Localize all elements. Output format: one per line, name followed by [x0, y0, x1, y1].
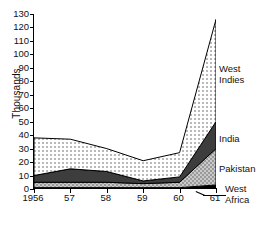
x-axis-tick-label: 59 [137, 193, 148, 203]
y-axis-tick-label: 100 [3, 49, 29, 59]
y-axis-tick-label: 80 [3, 76, 29, 86]
y-axis-tick-label: 20 [3, 157, 29, 167]
y-axis-tick-label: 30 [3, 144, 29, 154]
y-axis-tick-label: 120 [3, 22, 29, 32]
x-axis-tick-label: 57 [64, 193, 75, 203]
y-axis-tick-label: 60 [3, 103, 29, 113]
area-band-west-indies [34, 19, 216, 181]
y-axis-tick-label: 70 [3, 90, 29, 100]
series-label-pakistan: Pakistan [219, 164, 255, 175]
series-label-west-africa: West Africa [225, 184, 249, 205]
x-axis-tick-label: 1956 [22, 193, 43, 203]
y-axis-tick-mark [30, 162, 34, 163]
y-axis-tick-mark [30, 149, 34, 150]
plot-svg [34, 14, 216, 189]
y-axis-tick-label: 110 [3, 36, 29, 46]
y-axis-tick-label: 40 [3, 130, 29, 140]
y-axis-tick-label: 90 [3, 63, 29, 73]
y-axis-tick-mark [30, 41, 34, 42]
y-axis-tick-label: 50 [3, 117, 29, 127]
y-axis-tick-mark [30, 54, 34, 55]
west-africa-leader-line [203, 195, 226, 196]
y-axis-tick-mark [30, 176, 34, 177]
west-africa-leader-line-diagonal [196, 191, 206, 196]
y-axis-tick-mark [30, 14, 34, 15]
stacked-area-chart: Thousands 010203040506070809010011012013… [0, 0, 275, 227]
y-axis-tick-mark [30, 108, 34, 109]
y-axis-tick-mark [30, 27, 34, 28]
series-label-india: India [219, 134, 240, 145]
y-axis-tick-mark [30, 81, 34, 82]
y-axis-tick-label: 130 [3, 9, 29, 19]
y-axis-tick-mark [30, 122, 34, 123]
y-axis-tick-mark [30, 95, 34, 96]
series-label-west-indies: West Indies [219, 64, 244, 85]
y-axis-tick-mark [30, 68, 34, 69]
x-axis-tick-label: 60 [173, 193, 184, 203]
plot-area [33, 14, 215, 189]
y-axis-tick-label: 10 [3, 171, 29, 181]
y-axis-tick-mark [30, 135, 34, 136]
x-axis-tick-label: 58 [101, 193, 112, 203]
